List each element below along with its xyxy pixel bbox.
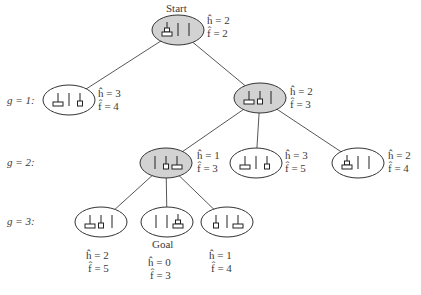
wide-block	[53, 102, 63, 106]
node-g3-goal	[141, 207, 193, 237]
g2-mid-h-value: ĥ = 3	[285, 150, 308, 161]
level-label-g3: g = 3:	[7, 216, 35, 227]
wide-block	[240, 165, 250, 169]
g3-right-h-value: ĥ = 1	[209, 250, 232, 261]
start-h-value: ĥ = 2	[207, 15, 230, 26]
wide-block	[172, 165, 182, 169]
wide-block	[173, 224, 183, 228]
g3-goal-f-value: f̂ = 3	[150, 270, 171, 281]
node-g1-left	[43, 85, 95, 115]
small-block	[165, 28, 170, 32]
g3-left-f-value: f̂ = 5	[88, 263, 109, 274]
small-block	[214, 223, 219, 228]
start-label: Start	[166, 3, 187, 14]
g1-left-h-value: ĥ = 3	[98, 88, 121, 99]
g1-right-h-value: ĥ = 2	[290, 86, 313, 97]
wide-block	[85, 224, 95, 228]
small-block	[164, 164, 169, 169]
level-label-g1: g = 1:	[7, 95, 35, 106]
node-g1-right	[234, 83, 286, 113]
g1-left-f-value: f̂ = 4	[98, 101, 119, 112]
g2-right-h-value: ĥ = 2	[388, 150, 411, 161]
level-label-g2: g = 2:	[7, 157, 35, 168]
g2-mid-f-value: f̂ = 5	[285, 163, 306, 174]
wide-block	[233, 224, 243, 228]
g3-left-h-value: ĥ = 2	[86, 250, 109, 261]
node-g2-left	[140, 148, 192, 178]
wide-block	[244, 100, 254, 104]
node-start	[152, 15, 204, 45]
node-g3-left	[75, 207, 127, 237]
g3-goal-h-value: ĥ = 0	[148, 257, 171, 268]
g2-left-f-value: f̂ = 3	[197, 163, 218, 174]
small-block	[265, 164, 270, 169]
wide-block	[342, 165, 352, 169]
start-f-value: f̂ = 2	[207, 28, 228, 39]
small-block	[176, 220, 181, 224]
small-block	[99, 223, 104, 228]
g2-left-h-value: ĥ = 1	[197, 150, 220, 161]
node-g2-mid	[230, 148, 282, 178]
small-block	[345, 161, 350, 165]
g1-right-f-value: f̂ = 3	[290, 99, 311, 110]
g2-right-f-value: f̂ = 4	[388, 163, 409, 174]
goal-label: Goal	[152, 239, 173, 250]
wide-block	[162, 32, 172, 36]
node-g3-right	[201, 207, 253, 237]
small-block	[78, 101, 83, 106]
g3-right-f-value: f̂ = 4	[211, 263, 232, 274]
node-g2-right	[332, 148, 384, 178]
small-block	[258, 99, 263, 104]
